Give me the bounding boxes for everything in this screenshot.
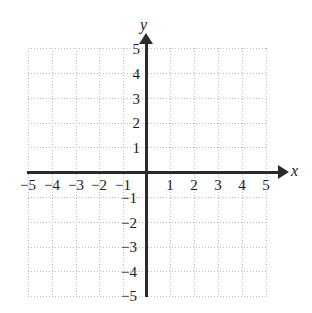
x-tick-label: 5 (251, 178, 281, 193)
coordinate-plane-figure: x y −5 −4 −3 −2 −1 1 2 3 4 5 5 4 3 2 1 −… (0, 0, 312, 313)
x-axis-arrow-icon (278, 165, 289, 179)
y-tick-label: 1 (110, 141, 140, 156)
y-tick-label: −5 (107, 289, 137, 304)
y-tick-label: −1 (107, 191, 137, 206)
x-axis-label: x (291, 162, 298, 180)
y-tick-label: −3 (107, 240, 137, 255)
x-axis-line (27, 171, 285, 174)
y-tick-label: −4 (107, 265, 137, 280)
y-axis-arrow-icon (139, 33, 153, 44)
y-axis-line (145, 39, 148, 297)
y-tick-label: −2 (107, 216, 137, 231)
y-tick-label: 2 (110, 116, 140, 131)
y-tick-label: 3 (110, 92, 140, 107)
y-axis-label: y (140, 16, 147, 34)
y-tick-label: 5 (110, 42, 140, 57)
y-tick-label: 4 (110, 67, 140, 82)
